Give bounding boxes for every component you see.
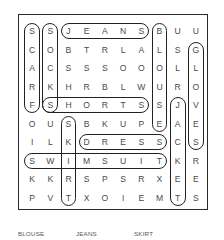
grid-cell[interactable]: R [59, 170, 77, 189]
grid-cell[interactable]: E [114, 133, 132, 152]
grid-cell[interactable]: B [59, 41, 77, 60]
grid-cell[interactable]: O [132, 59, 150, 78]
grid-cell[interactable]: R [96, 96, 114, 115]
grid-cell[interactable]: T [150, 152, 168, 171]
grid-cell[interactable]: X [78, 189, 96, 208]
grid-cell[interactable]: T [78, 41, 96, 60]
grid-cell[interactable]: T [169, 189, 187, 208]
grid-cell[interactable]: S [132, 22, 150, 41]
grid-cell[interactable]: K [23, 170, 41, 189]
grid-cell[interactable]: O [96, 189, 114, 208]
grid-cell[interactable]: L [187, 59, 205, 78]
grid-cell[interactable]: U [114, 115, 132, 134]
grid-cell[interactable]: L [169, 59, 187, 78]
grid-cell[interactable]: K [41, 170, 59, 189]
grid-cell[interactable]: W [41, 152, 59, 171]
grid-cell[interactable]: S [132, 96, 150, 115]
grid-cell[interactable]: L [114, 41, 132, 60]
grid-cell[interactable]: L [41, 133, 59, 152]
grid-cell[interactable]: S [23, 152, 41, 171]
grid-cell[interactable]: S [150, 96, 168, 115]
grid-cell[interactable]: C [23, 41, 41, 60]
grid-cell[interactable]: T [114, 96, 132, 115]
grid-cell[interactable]: S [187, 189, 205, 208]
grid-cell[interactable]: E [150, 115, 168, 134]
grid-cell[interactable]: I [23, 133, 41, 152]
grid-cell[interactable]: E [169, 170, 187, 189]
grid-cell[interactable]: V [187, 96, 205, 115]
grid-cell[interactable]: X [150, 170, 168, 189]
grid-cell[interactable]: S [78, 59, 96, 78]
grid-cell[interactable]: S [59, 59, 77, 78]
grid-cell[interactable]: M [150, 189, 168, 208]
grid-cell[interactable]: A [169, 115, 187, 134]
grid-cell[interactable]: R [187, 152, 205, 171]
grid-cell[interactable]: O [187, 78, 205, 97]
grid-cell[interactable]: H [59, 78, 77, 97]
grid-cell[interactable]: O [41, 41, 59, 60]
grid-cell[interactable]: S [187, 133, 205, 152]
grid-cell[interactable]: O [114, 59, 132, 78]
grid-cell[interactable]: B [150, 22, 168, 41]
grid-cell[interactable]: S [169, 41, 187, 60]
grid-cell[interactable]: E [132, 189, 150, 208]
grid-cell[interactable]: S [41, 96, 59, 115]
grid-cell[interactable]: O [23, 115, 41, 134]
grid-cell[interactable]: K [41, 78, 59, 97]
grid-cell[interactable]: R [132, 170, 150, 189]
grid-cell[interactable]: E [78, 22, 96, 41]
grid-cell[interactable]: S [96, 152, 114, 171]
grid-cell[interactable]: A [23, 59, 41, 78]
grid-cell[interactable]: R [23, 78, 41, 97]
grid-cell[interactable]: D [78, 133, 96, 152]
grid-cell[interactable]: S [132, 133, 150, 152]
grid-cell[interactable]: U [150, 78, 168, 97]
grid-cell[interactable]: V [41, 189, 59, 208]
grid-cell[interactable]: S [41, 22, 59, 41]
grid-cell[interactable]: G [187, 41, 205, 60]
grid-cell[interactable]: F [23, 96, 41, 115]
grid-cell[interactable]: R [78, 78, 96, 97]
grid-cell[interactable]: U [114, 152, 132, 171]
grid-cell[interactable]: S [59, 115, 77, 134]
grid-cell[interactable]: W [132, 78, 150, 97]
grid-cell[interactable]: O [150, 59, 168, 78]
grid-cell[interactable]: N [114, 22, 132, 41]
grid-cell[interactable]: S [23, 22, 41, 41]
grid-cell[interactable]: U [169, 22, 187, 41]
grid-cell[interactable]: S [78, 170, 96, 189]
grid-cell[interactable]: J [169, 96, 187, 115]
grid-cell[interactable]: L [150, 41, 168, 60]
grid-cell[interactable]: K [96, 115, 114, 134]
grid-cell[interactable]: P [96, 170, 114, 189]
grid-cell[interactable]: E [187, 115, 205, 134]
grid-cell[interactable]: H [59, 96, 77, 115]
grid-cell[interactable]: A [96, 22, 114, 41]
grid-cell[interactable]: R [96, 41, 114, 60]
grid-cell[interactable]: E [187, 170, 205, 189]
grid-cell[interactable]: C [41, 59, 59, 78]
grid-cell[interactable]: I [59, 152, 77, 171]
grid-cell[interactable]: S [96, 59, 114, 78]
grid-cell[interactable]: J [59, 22, 77, 41]
grid-cell[interactable]: I [114, 189, 132, 208]
grid-cell[interactable]: O [78, 96, 96, 115]
grid-cell[interactable]: B [96, 78, 114, 97]
grid-cell[interactable]: U [41, 115, 59, 134]
grid-cell[interactable]: T [59, 189, 77, 208]
grid-cell[interactable]: M [78, 152, 96, 171]
grid-cell[interactable]: C [169, 133, 187, 152]
grid-cell[interactable]: K [59, 133, 77, 152]
grid-cell[interactable]: K [169, 152, 187, 171]
grid-cell[interactable]: R [96, 133, 114, 152]
grid-cell[interactable]: A [132, 41, 150, 60]
grid-cell[interactable]: I [132, 152, 150, 171]
grid-cell[interactable]: S [150, 133, 168, 152]
grid-cell[interactable]: L [114, 78, 132, 97]
grid-cell[interactable]: U [187, 22, 205, 41]
grid-cell[interactable]: S [114, 170, 132, 189]
grid-cell[interactable]: P [132, 115, 150, 134]
grid-cell[interactable]: B [78, 115, 96, 134]
grid-cell[interactable]: R [169, 78, 187, 97]
grid-cell[interactable]: P [23, 189, 41, 208]
